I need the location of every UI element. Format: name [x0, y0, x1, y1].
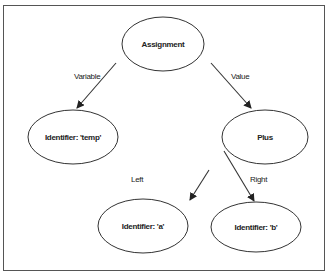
node-label-assignment: Assignment: [142, 40, 185, 49]
node-assignment: Assignment: [122, 17, 204, 71]
node-label-temp: Identifier: 'temp': [45, 133, 102, 142]
edge-value: Value: [211, 63, 251, 108]
node-plus: Plus: [222, 110, 308, 164]
edge-label-right: Right: [250, 175, 268, 184]
node-label-a: Identifier: 'a': [122, 222, 165, 231]
edge-label-variable: Variable: [74, 72, 101, 81]
edge-label-left: Left: [131, 175, 144, 184]
edge-left: Left: [131, 170, 209, 200]
node-identifier-a: Identifier: 'a': [98, 199, 188, 253]
node-identifier-b: Identifier: 'b': [211, 202, 301, 252]
edge-variable: Variable: [74, 63, 116, 108]
ast-diagram: Variable Value Left Right Assignment Ide…: [0, 0, 329, 273]
node-label-plus: Plus: [257, 133, 274, 142]
node-identifier-temp: Identifier: 'temp': [28, 110, 118, 164]
node-label-b: Identifier: 'b': [235, 223, 278, 232]
edge-label-value: Value: [231, 72, 250, 81]
